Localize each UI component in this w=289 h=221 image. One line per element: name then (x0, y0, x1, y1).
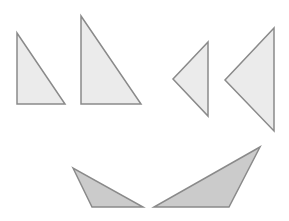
diagram-canvas (0, 0, 289, 221)
obtuse-triangle-right (154, 147, 260, 207)
right-triangle-small (17, 33, 65, 104)
left-pointing-triangle-large (225, 28, 274, 131)
obtuse-triangle-left (73, 168, 143, 207)
left-pointing-triangle-small (173, 42, 208, 116)
triangles-diagram (0, 0, 289, 221)
right-triangle-large (81, 16, 141, 104)
